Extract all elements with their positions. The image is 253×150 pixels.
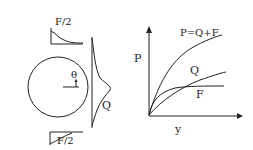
curve-f — [149, 86, 224, 115]
pile-diagram: F/2 F/2 θ Q — [28, 16, 111, 146]
theta-label: θ — [71, 69, 77, 80]
bearing-distribution — [92, 37, 110, 128]
curve-p-label: P=Q+F — [180, 27, 219, 38]
q-distribution-label: Q — [102, 99, 111, 112]
y-axis-label: P — [134, 52, 142, 65]
x-axis-label: y — [174, 123, 182, 136]
diagram-canvas: F/2 F/2 θ Q P y P=Q+F — [0, 0, 253, 150]
top-f-half-label: F/2 — [55, 16, 72, 27]
bottom-f-half-label: F/2 — [57, 135, 74, 146]
x-axis-arrow-icon — [237, 113, 243, 119]
curve-f-label: F — [196, 88, 204, 101]
load-displacement-chart: P y P=Q+F Q F — [134, 26, 243, 136]
curve-q-label: Q — [190, 64, 199, 77]
curve-q — [149, 72, 226, 115]
y-axis-arrow-icon — [146, 26, 152, 33]
top-friction-distribution — [51, 28, 83, 44]
curve-p — [149, 35, 222, 115]
